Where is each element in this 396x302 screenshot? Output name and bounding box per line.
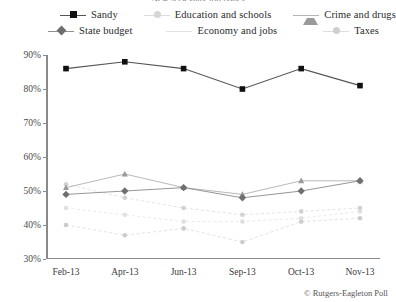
legend-item-taxes[interactable]: Taxes <box>323 24 379 38</box>
data-point-economy-Oct-13 <box>299 216 304 221</box>
data-point-budget-Apr-13 <box>121 187 128 194</box>
legend-marker-none-icon <box>166 26 192 36</box>
legend-label-sandy: Sandy <box>91 8 118 22</box>
data-point-taxes-Feb-13 <box>64 223 69 228</box>
data-point-budget-Sep-13 <box>239 194 246 201</box>
legend-marker-dot-icon <box>144 10 170 20</box>
x-tick-sep-13: Sep-13 <box>229 267 256 277</box>
data-point-economy-Feb-13 <box>64 206 69 211</box>
legend-label-economy: Economy and jobs <box>197 24 277 38</box>
x-tick-jun-13: Jun-13 <box>171 267 197 277</box>
series-education <box>64 182 363 217</box>
data-point-taxes-Apr-13 <box>123 233 128 238</box>
x-tick-apr-13: Apr-13 <box>111 267 138 277</box>
series-sandy <box>63 59 363 92</box>
legend-label-education: Education and schools <box>175 8 272 22</box>
data-point-education-Sep-13 <box>240 213 245 218</box>
data-point-education-Nov-13 <box>358 206 363 211</box>
data-point-sandy-Sep-13 <box>240 86 246 92</box>
chart-legend: SandyEducation and schoolsCrime and drug… <box>0 8 396 38</box>
data-point-taxes-Nov-13 <box>358 216 363 221</box>
series-taxes <box>64 216 363 244</box>
data-point-sandy-Feb-13 <box>63 66 69 72</box>
data-point-education-Apr-13 <box>123 196 128 201</box>
series-economy <box>64 206 363 224</box>
y-tick-90: 90% <box>24 50 41 60</box>
data-point-economy-Sep-13 <box>240 219 245 224</box>
legend-label-budget: State budget <box>79 24 132 38</box>
copyright-credit: © Rutgers-Eagleton Poll <box>304 288 388 298</box>
legend-item-sandy[interactable]: Sandy <box>60 8 118 22</box>
y-tick-70: 70% <box>24 118 41 128</box>
data-point-taxes-Jun-13 <box>181 226 186 231</box>
series-layer <box>46 55 380 259</box>
y-tick-mark-30 <box>43 259 46 260</box>
series-line-budget <box>66 181 360 198</box>
data-point-sandy-Nov-13 <box>357 83 363 89</box>
data-point-sandy-Jun-13 <box>181 66 187 72</box>
legend-row-2: State budgetEconomy and jobsTaxes <box>0 24 396 38</box>
data-point-budget-Jun-13 <box>180 184 187 191</box>
legend-marker-triangle-icon <box>293 10 319 20</box>
x-tick-nov-13: Nov-13 <box>345 267 374 277</box>
series-line-economy <box>66 208 360 222</box>
y-tick-50: 50% <box>24 186 41 196</box>
y-tick-80: 80% <box>24 84 41 94</box>
data-point-budget-Nov-13 <box>356 177 363 184</box>
legend-label-crime: Crime and drugs <box>324 8 396 22</box>
chart-title: New Jerseyans' top issues <box>0 0 396 1</box>
y-tick-30: 30% <box>24 254 41 264</box>
data-point-education-Oct-13 <box>299 209 304 214</box>
data-point-education-Jun-13 <box>181 206 186 211</box>
series-line-taxes <box>66 218 360 242</box>
plot-area: 30%40%50%60%70%80%90% Feb-13Apr-13Jun-13… <box>46 55 380 259</box>
legend-row-1: SandyEducation and schoolsCrime and drug… <box>0 8 396 22</box>
legend-item-crime[interactable]: Crime and drugs <box>293 8 396 22</box>
legend-item-education[interactable]: Education and schools <box>144 8 272 22</box>
data-point-economy-Jun-13 <box>181 219 186 224</box>
legend-marker-diamond-icon <box>48 26 74 36</box>
legend-item-economy[interactable]: Economy and jobs <box>166 24 277 38</box>
data-point-sandy-Apr-13 <box>122 59 128 65</box>
data-point-sandy-Oct-13 <box>298 66 304 72</box>
legend-marker-square-icon <box>60 10 86 20</box>
x-tick-oct-13: Oct-13 <box>288 267 314 277</box>
x-tick-feb-13: Feb-13 <box>53 267 80 277</box>
data-point-taxes-Sep-13 <box>240 240 245 245</box>
series-line-crime <box>66 174 360 194</box>
data-point-budget-Oct-13 <box>298 187 305 194</box>
legend-item-budget[interactable]: State budget <box>48 24 132 38</box>
y-tick-40: 40% <box>24 220 41 230</box>
legend-marker-dot-icon <box>323 26 349 36</box>
y-tick-60: 60% <box>24 152 41 162</box>
legend-label-taxes: Taxes <box>354 24 379 38</box>
series-line-sandy <box>66 62 360 89</box>
data-point-budget-Feb-13 <box>62 191 69 198</box>
data-point-crime-Apr-13 <box>122 171 128 177</box>
data-point-economy-Apr-13 <box>123 213 128 218</box>
poll-line-chart: New Jerseyans' top issues SandyEducation… <box>0 0 396 302</box>
